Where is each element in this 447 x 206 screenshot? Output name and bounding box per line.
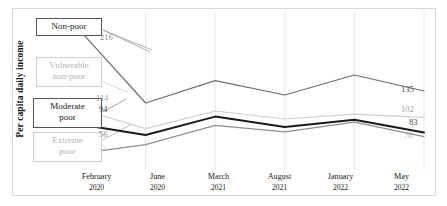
gridlines <box>146 12 424 170</box>
x-tick-year: 2022 <box>310 183 371 194</box>
x-tick-year: 2020 <box>66 183 127 194</box>
end-value-non-poor: 135 <box>401 84 414 94</box>
series-line-non-poor <box>76 26 424 103</box>
start-value-extreme-poor: 56 <box>99 130 107 139</box>
callout-moderate-poor-line1: Moderate <box>50 101 84 111</box>
x-tick-4: January2022 <box>310 172 371 202</box>
x-tick-0: February2020 <box>66 172 127 202</box>
x-tick-year: 2021 <box>188 183 249 194</box>
start-value-moderate-poor: 94 <box>99 105 107 114</box>
x-tick-year: 2020 <box>127 183 188 194</box>
y-axis-title: Per capita daily income <box>15 24 25 154</box>
callout-moderate-poor[interactable]: Moderate poor <box>33 98 102 128</box>
callout-vulnerable-non-poor-line1: Vulnerable <box>49 60 88 70</box>
callout-extreme-poor[interactable]: Extreme poor <box>33 132 102 162</box>
end-value-moderate-poor: 83 <box>409 117 418 127</box>
x-tick-3: August2021 <box>249 172 310 202</box>
callout-non-poor-label: Non-poor <box>52 21 87 31</box>
series-line-extreme-poor <box>76 122 424 154</box>
callout-extreme-poor-line2: poor <box>59 146 76 156</box>
x-tick-month: March <box>188 172 249 183</box>
x-tick-month: June <box>127 172 188 183</box>
start-value-non-poor: 216 <box>100 33 113 42</box>
x-tick-year: 2021 <box>249 183 310 194</box>
x-tick-year: 2022 <box>371 183 432 194</box>
end-value-extreme-poor: 78 <box>404 130 413 140</box>
plot-area <box>66 12 432 170</box>
x-tick-month: May <box>371 172 432 183</box>
x-tick-month: January <box>310 172 371 183</box>
x-tick-5: May2022 <box>371 172 432 202</box>
callout-moderate-poor-line2: poor <box>59 112 76 122</box>
x-tick-month: August <box>249 172 310 183</box>
callout-extreme-poor-line1: Extreme <box>52 135 83 145</box>
callout-vulnerable-non-poor-line2: non-poor <box>53 71 86 81</box>
start-value-vulnerable-non-poor: 114 <box>96 94 108 103</box>
figure-container: Per capita daily income Non-poor Vulnera… <box>0 0 447 206</box>
x-tick-1: June2020 <box>127 172 188 202</box>
x-tick-2: March2021 <box>188 172 249 202</box>
x-axis-labels: February2020June2020March2021August2021J… <box>66 172 432 202</box>
series-layer <box>76 26 424 154</box>
callout-non-poor[interactable]: Non-poor <box>36 18 102 36</box>
callout-vulnerable-non-poor[interactable]: Vulnerable non-poor <box>36 57 102 87</box>
end-value-vulnerable-non-poor: 102 <box>401 104 414 114</box>
line-chart-svg <box>66 12 432 170</box>
x-tick-month: February <box>66 172 127 183</box>
